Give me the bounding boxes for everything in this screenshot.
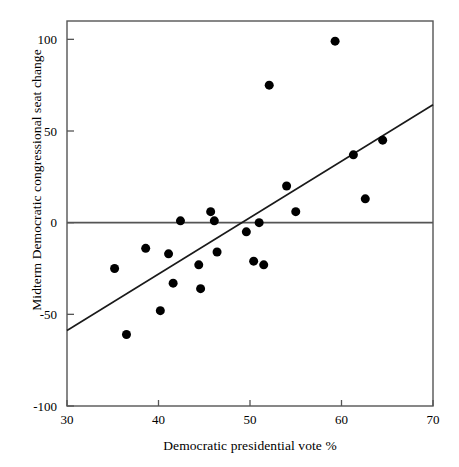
data-point — [196, 284, 205, 293]
data-point — [156, 306, 165, 315]
data-point — [265, 81, 274, 90]
y-tick-label: 0 — [51, 215, 58, 230]
scatter-plot-figure: -100-50050100 3040506070 Midterm Democra… — [0, 0, 459, 467]
data-point — [349, 150, 358, 159]
data-point — [291, 207, 300, 216]
data-point — [255, 218, 264, 227]
data-point — [249, 257, 258, 266]
regression-line — [67, 105, 433, 331]
x-tick-label: 40 — [152, 412, 165, 427]
x-axis-label: Democratic presidential vote % — [67, 438, 433, 454]
data-point — [213, 248, 222, 257]
data-point — [331, 37, 340, 46]
data-point — [259, 260, 268, 269]
data-point — [164, 249, 173, 258]
data-point — [194, 260, 203, 269]
data-point — [110, 264, 119, 273]
plot-frame — [67, 21, 433, 406]
x-tick-label: 50 — [244, 412, 257, 427]
regression-line — [67, 105, 433, 331]
data-point — [176, 216, 185, 225]
data-point — [210, 216, 219, 225]
data-point — [169, 279, 178, 288]
data-point — [282, 182, 291, 191]
x-tick-label: 30 — [61, 412, 74, 427]
data-point — [378, 136, 387, 145]
y-tick-label: -100 — [33, 399, 57, 414]
x-tick-label: 60 — [335, 412, 348, 427]
x-axis-ticks: 3040506070 — [61, 400, 440, 427]
x-tick-label: 70 — [427, 412, 440, 427]
data-point — [141, 244, 150, 253]
data-point — [206, 207, 215, 216]
plot-canvas: -100-50050100 3040506070 — [0, 0, 459, 467]
data-points — [110, 37, 387, 339]
y-axis-label: Midterm Democratic congressional seat ch… — [26, 0, 48, 390]
data-point — [361, 194, 370, 203]
data-point — [122, 330, 131, 339]
data-point — [242, 227, 251, 236]
